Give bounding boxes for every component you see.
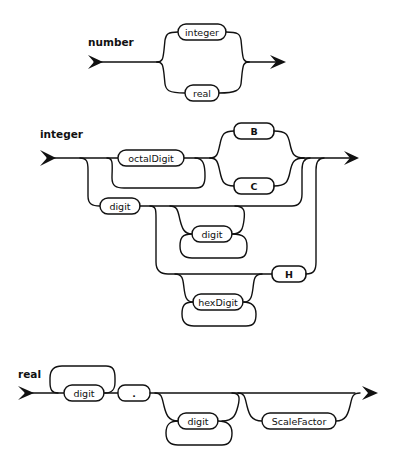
svg-text:digit: digit	[187, 416, 208, 427]
svg-text:H: H	[285, 269, 293, 280]
svg-text:ScaleFactor: ScaleFactor	[272, 416, 327, 427]
exit-arrow-icon	[362, 386, 378, 400]
svg-text:hexDigit: hexDigit	[198, 297, 238, 308]
svg-text:integer: integer	[185, 27, 219, 38]
syntax-diagrams: number integer real integer octalDigit B…	[0, 0, 399, 470]
integer-diagram: integer octalDigit B C digit digit	[40, 123, 359, 326]
svg-text:.: .	[132, 388, 136, 399]
integer-title: integer	[40, 128, 84, 140]
svg-text:octalDigit: octalDigit	[128, 153, 174, 164]
svg-text:real: real	[193, 88, 211, 99]
svg-text:digit: digit	[201, 229, 222, 240]
svg-text:B: B	[250, 126, 257, 137]
svg-text:C: C	[251, 181, 258, 192]
number-title: number	[88, 36, 135, 48]
svg-text:digit: digit	[73, 388, 94, 399]
real-diagram: real digit . digit ScaleFactor	[18, 366, 378, 445]
number-diagram: number integer real	[88, 24, 286, 101]
svg-text:digit: digit	[109, 201, 130, 212]
real-title: real	[18, 368, 41, 380]
